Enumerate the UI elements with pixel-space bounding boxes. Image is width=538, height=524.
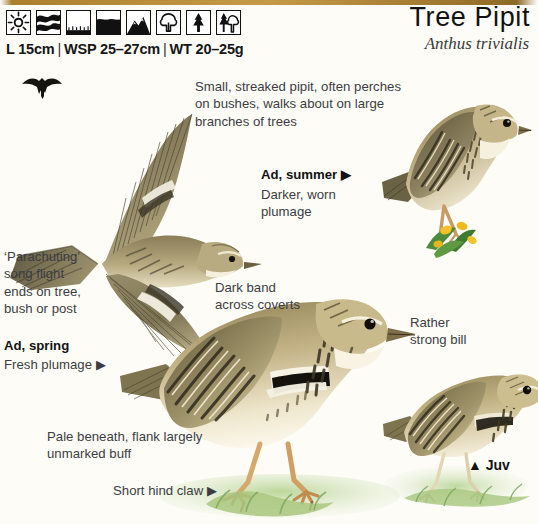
mixed-wood-icon: [216, 10, 241, 35]
water-icon: [96, 10, 121, 35]
caption-strong-bill: Rather strong bill: [410, 314, 510, 349]
caption-ad-summer-label: Ad, summer ▶: [261, 166, 351, 183]
measurements-line: L 15cm|WSP 25–27cm|WT 20–25g: [6, 41, 244, 57]
caption-dark-band: Dark band across coverts: [215, 279, 335, 314]
habitat-icon-strip: [6, 10, 241, 35]
wingspan-value: WSP 25–27cm: [64, 41, 160, 57]
caption-pale-beneath: Pale beneath, flank largely unmarked buf…: [47, 428, 262, 463]
marsh-icon: [36, 10, 61, 35]
flight-silhouette: [18, 72, 66, 104]
weight-value: WT 20–25g: [170, 41, 244, 57]
open-ground-icon: [66, 10, 91, 35]
caption-short-hind-claw: Short hind claw ▶: [113, 482, 217, 499]
measure-separator-2: |: [160, 41, 170, 57]
caption-parachuting: ‘Parachuting’ song flight ends on tree, …: [4, 248, 134, 318]
caption-ad-spring-note: Fresh plumage ▶: [4, 356, 144, 373]
conifer-tree-icon: [186, 10, 211, 35]
sun-icon: [6, 10, 31, 35]
scientific-name: Anthus trivialis: [425, 35, 529, 52]
measure-separator-1: |: [55, 41, 65, 57]
caption-intro: Small, streaked pipit, often perches on …: [195, 78, 425, 130]
caption-ad-spring-label: Ad, spring: [4, 337, 69, 354]
caption-juv-label: ▲ Juv: [468, 456, 510, 474]
broadleaf-tree-icon: [156, 10, 181, 35]
mountain-icon: [126, 10, 151, 35]
caption-ad-summer-note: Darker, worn plumage: [261, 186, 371, 221]
length-value: L 15cm: [6, 41, 55, 57]
page-title: Tree Pipit: [409, 4, 530, 31]
bird-juvenile: [382, 358, 538, 508]
field-guide-page: L 15cm|WSP 25–27cm|WT 20–25g Tree Pipit …: [0, 0, 538, 524]
